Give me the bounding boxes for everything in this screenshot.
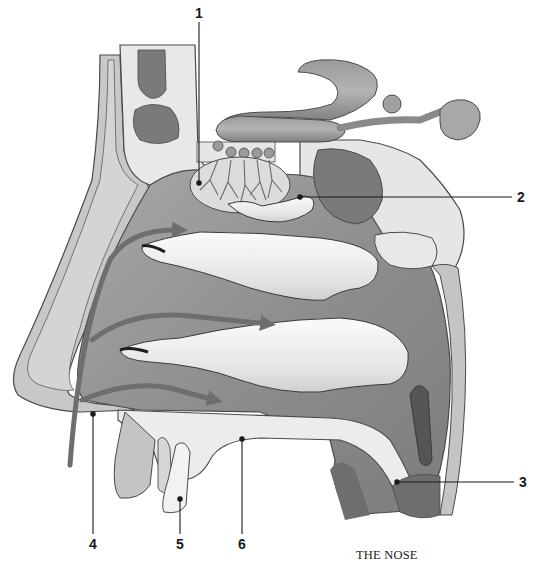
nose-anatomy-diagram xyxy=(0,0,536,567)
frontal-sinus-lower xyxy=(133,104,179,143)
olfactory-bulb xyxy=(216,60,480,142)
callout-label-1: 1 xyxy=(195,6,203,20)
callout-label-2: 2 xyxy=(517,190,525,204)
callout-label-5: 5 xyxy=(176,537,184,551)
callout-label-4: 4 xyxy=(89,537,97,551)
frontal-bone xyxy=(120,45,210,185)
callout-label-3: 3 xyxy=(519,475,527,489)
diagram-caption: THE NOSE xyxy=(356,548,418,563)
frontal-sinus-upper xyxy=(138,50,166,98)
callout-label-6: 6 xyxy=(238,537,246,551)
